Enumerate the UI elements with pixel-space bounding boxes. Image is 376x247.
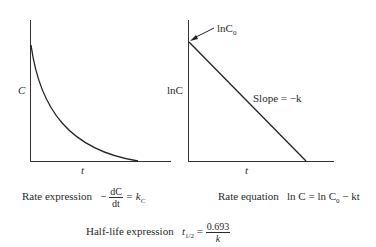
slope-label: Slope = −k xyxy=(253,92,301,104)
decay-curve xyxy=(31,45,138,161)
diagram-graphics xyxy=(0,0,376,247)
right-x-label: t xyxy=(245,164,248,176)
left-y-label: C xyxy=(18,84,25,96)
rate-equation: Rate equation ln C = ln C0 − kt xyxy=(218,190,360,205)
half-life-expression: Half-life expression t1/2 = 0.693k xyxy=(86,221,230,244)
arrow-icon xyxy=(190,28,214,41)
intercept-label: lnC0 xyxy=(217,22,236,37)
left-axes xyxy=(30,20,171,162)
rate-expression: Rate expression − dCdt = kC xyxy=(22,186,145,209)
right-y-label: lnC xyxy=(167,84,183,96)
right-axes xyxy=(188,20,334,162)
left-x-label: t xyxy=(81,164,84,176)
